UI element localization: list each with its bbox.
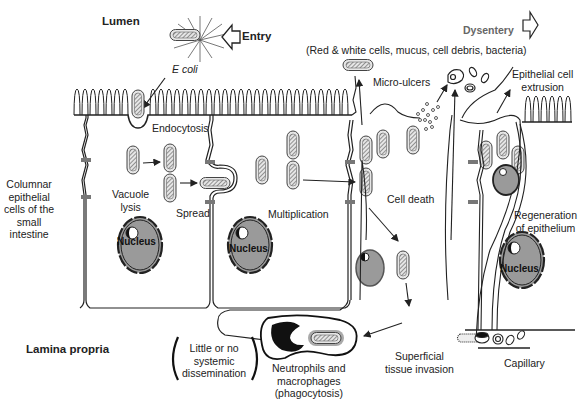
vacuole-lysis-label: Vacuole lysis [112,188,149,213]
vacuole-lysis-line: lysis [112,201,149,214]
cell-death-label: Cell death [387,193,434,206]
endocytosis-label: Endocytosis [152,122,209,135]
entry-arrow-icon [222,25,240,49]
superficial-invasion-line: tissue invasion [385,363,454,376]
diagram-canvas: Lumen Entry E coli Endocytosis Columnar … [0,0,588,411]
epithelium-line: small [4,216,54,229]
microvilli-brush-border [74,89,571,122]
vacuole-lysis-line: Vacuole [112,188,149,201]
cell-debris [417,103,440,131]
lumen-label: Lumen [102,15,140,28]
shed-cells [448,66,490,92]
lamina-propria-label: Lamina propria [26,343,109,356]
multiplication-label: Multiplication [268,208,329,221]
dysentery-label: Dysentery [463,24,514,37]
spread-label: Spread [176,207,210,220]
nucleus-label-1: Nucleus [117,236,156,249]
nucleus-regenerating-cell [500,232,544,288]
regeneration-line: Regeneration [514,209,577,222]
phagocytosis-line: (phagocytosis) [272,387,346,400]
dissemination-line: Little or no [182,342,246,355]
extruding-cell-nucleus [493,165,519,195]
regeneration-line: of epithelium [514,222,577,235]
epithelium-line: cells of the [4,203,54,216]
dissemination-line: dissemination [182,367,246,380]
entry-label: Entry [242,30,271,43]
dissemination-line: systemic [182,355,246,368]
phagocytosis-label: Neutrophils and macrophages (phagocytosi… [272,362,346,400]
dysentery-contents-label: (Red & white cells, mucus, cell debris, … [306,44,527,57]
epithelium-line: intestine [4,228,54,241]
capillary-cells [458,330,527,346]
dissemination-label: Little or no systemic dissemination [182,342,246,380]
regeneration-label: Regeneration of epithelium [514,209,577,234]
nucleus-label-2: Nucleus [229,243,268,256]
nucleus-label-3: Nucleus [500,263,539,276]
phagocyte [261,315,357,359]
superficial-invasion-line: Superficial [385,350,454,363]
epithelium-line: epithelial [4,191,54,204]
phagocytosis-line: Neutrophils and [272,362,346,375]
extrusion-line: extrusion [512,81,573,94]
phagocytosis-line: macrophages [272,375,346,388]
extrusion-line: Epithelial cell [512,68,573,81]
ecoli-organism [170,16,226,62]
epithelium-label: Columnar epithelial cells of the small i… [4,178,54,241]
epithelium-line: Columnar [4,178,54,191]
extrusion-label: Epithelial cell extrusion [512,68,573,93]
capillary-label: Capillary [504,357,545,370]
cell-borders [80,115,353,340]
micro-ulcers-label: Micro-ulcers [373,76,430,89]
ecoli-label: E coli [172,63,198,76]
dysentery-arrow-icon [523,12,538,38]
superficial-invasion-label: Superficial tissue invasion [385,350,454,375]
